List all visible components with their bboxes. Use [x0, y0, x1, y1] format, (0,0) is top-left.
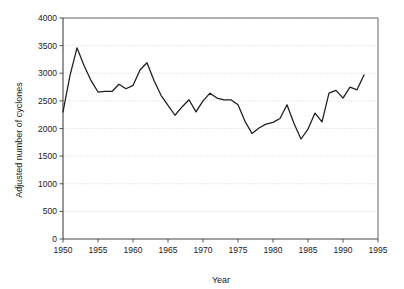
- y-tick-label-1000: 1000: [38, 179, 57, 189]
- y-tick-label-2000: 2000: [38, 124, 57, 134]
- y-tick-label-1500: 1500: [38, 151, 57, 161]
- x-axis-title: Year: [212, 275, 230, 285]
- x-tick-label-1970: 1970: [194, 245, 213, 255]
- x-tick-label-1975: 1975: [229, 245, 248, 255]
- chart-canvas: 05001000150020002500300035004000 1950195…: [0, 0, 404, 289]
- data-series-line: [63, 48, 364, 139]
- x-tick-label-1985: 1985: [299, 245, 318, 255]
- x-tick-label-1950: 1950: [54, 245, 73, 255]
- x-tick-label-1995: 1995: [369, 245, 388, 255]
- y-tick-label-3000: 3000: [38, 68, 57, 78]
- x-tick-label-1960: 1960: [124, 245, 143, 255]
- y-tick-label-4000: 4000: [38, 13, 57, 23]
- x-tick-label-1965: 1965: [159, 245, 178, 255]
- gridlines: [63, 18, 378, 211]
- plot-frame: [63, 18, 378, 239]
- y-tick-label-0: 0: [52, 234, 57, 244]
- cyclone-line-chart: 05001000150020002500300035004000 1950195…: [0, 0, 404, 289]
- y-axis-tick-labels: 05001000150020002500300035004000: [38, 13, 57, 244]
- y-tick-label-3500: 3500: [38, 41, 57, 51]
- x-tick-label-1990: 1990: [334, 245, 353, 255]
- y-axis-title: Adjusted number of cyclones: [14, 82, 24, 198]
- y-tick-label-2500: 2500: [38, 96, 57, 106]
- x-tick-label-1955: 1955: [89, 245, 108, 255]
- y-tick-label-500: 500: [43, 206, 57, 216]
- x-axis-tick-labels: 1950195519601965197019751980198519901995: [54, 245, 388, 255]
- x-tick-label-1980: 1980: [264, 245, 283, 255]
